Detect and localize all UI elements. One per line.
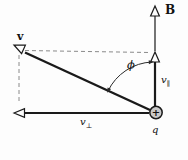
v-perp-label: v⊥ (80, 116, 92, 130)
v-perp-arrowhead-icon (14, 109, 25, 118)
v-parallel-arrowhead-icon (151, 52, 160, 62)
v-parallel-label: v∥ (161, 74, 170, 88)
dashed-horizontal-guide (25, 51, 149, 53)
vector-decomposition-diagram: + B v v∥ v⊥ ϕ q (0, 0, 188, 160)
charge-sign: + (152, 107, 160, 118)
v-perp-subscript: ⊥ (86, 122, 93, 130)
charge-label: q (152, 124, 158, 135)
diagram-canvas: + B v v∥ v⊥ ϕ q (0, 0, 188, 160)
b-field-label: B (165, 3, 175, 17)
velocity-label: v (16, 30, 24, 43)
angle-label: ϕ (127, 58, 135, 72)
b-field-arrowhead-icon (151, 6, 160, 16)
velocity-arrowhead-icon (14, 45, 25, 54)
v-parallel-subscript: ∥ (167, 80, 170, 88)
